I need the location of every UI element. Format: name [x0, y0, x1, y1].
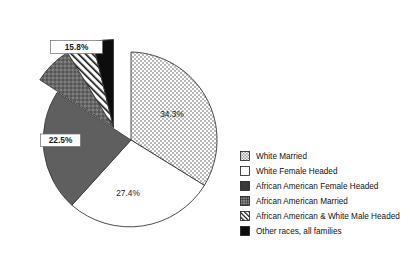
legend-item-aa-female-headed[interactable]: African American Female Headed	[241, 182, 379, 191]
legend-label-white-married: White Married	[256, 152, 307, 161]
data-label-exploded-group: 15.8%	[65, 42, 89, 52]
legend-label-aa-white-male-headed: African American & White Male Headed	[256, 212, 400, 221]
legend-label-aa-female-headed: African American Female Headed	[256, 182, 379, 191]
pie-slices	[40, 40, 217, 227]
legend-swatch-crosshatch-icon	[241, 197, 250, 206]
legend-item-aa-married[interactable]: African American Married	[241, 197, 349, 206]
chart-canvas: 34.3% 27.4% 22.5% 15.8% White Married Wh…	[0, 0, 417, 262]
legend-item-white-female-headed[interactable]: White Female Headed	[241, 167, 338, 176]
data-label-white-female-headed: 27.4%	[116, 188, 140, 198]
chart-legend: White Married White Female Headed Africa…	[241, 152, 401, 236]
legend-label-other-races: Other races, all families	[256, 227, 342, 236]
pie-chart-figure: 34.3% 27.4% 22.5% 15.8% White Married Wh…	[0, 0, 417, 262]
legend-swatch-diagonal-icon	[241, 212, 250, 221]
legend-item-aa-white-male-headed[interactable]: African American & White Male Headed	[241, 212, 401, 221]
legend-item-white-married[interactable]: White Married	[241, 152, 308, 161]
legend-swatch-black-icon	[241, 227, 250, 236]
legend-swatch-dark-solid-icon	[241, 182, 250, 191]
legend-label-aa-married: African American Married	[256, 197, 348, 206]
legend-swatch-white-icon	[241, 167, 250, 176]
data-label-aa-female-headed: 22.5%	[49, 135, 73, 145]
legend-swatch-dotted-icon	[241, 152, 250, 161]
legend-label-white-female-headed: White Female Headed	[256, 167, 338, 176]
data-label-white-married: 34.3%	[160, 109, 184, 119]
legend-item-other-races[interactable]: Other races, all families	[241, 227, 342, 236]
